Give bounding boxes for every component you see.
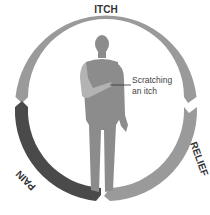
annotation-line2: an itch [132, 86, 157, 96]
label-pain: PAIN [13, 168, 37, 192]
human-figure [84, 35, 128, 192]
label-relief: RELIEF [188, 140, 210, 177]
label-itch: ITCH [94, 4, 117, 15]
itch-cycle-diagram: Scratching an itch ITCH RELIEF PAIN [0, 0, 210, 215]
annotation-line1: Scratching [132, 75, 172, 85]
